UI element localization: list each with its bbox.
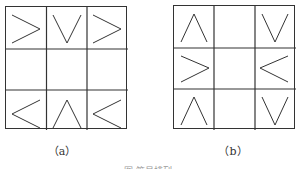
grid-b <box>173 5 295 129</box>
less-than-icon <box>260 56 288 82</box>
greater-than-icon <box>93 15 121 43</box>
figure-a-label: （a） <box>42 142 82 158</box>
grid-b-drawing <box>174 6 296 130</box>
v-icon <box>262 14 288 42</box>
grid-a-drawing <box>6 7 128 130</box>
caret-up-icon <box>181 97 207 125</box>
caret-up-icon <box>53 100 81 128</box>
grid-a <box>5 6 127 129</box>
less-than-icon <box>93 100 121 128</box>
v-icon <box>53 15 81 43</box>
greater-than-icon <box>12 15 40 43</box>
v-icon <box>262 97 288 125</box>
caret-up-icon <box>181 14 207 42</box>
figure-b-label: （b） <box>213 142 253 158</box>
greater-than-icon <box>181 56 209 82</box>
less-than-icon <box>12 100 40 128</box>
figure-caption: 图 符号排列 <box>0 164 296 169</box>
